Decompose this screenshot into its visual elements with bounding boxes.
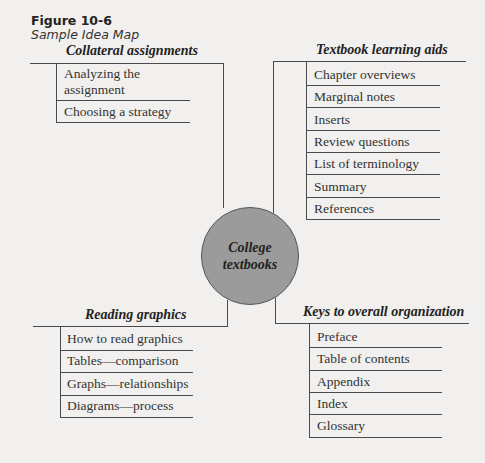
item-divider (309, 414, 442, 415)
item-divider (56, 100, 190, 101)
list-item: Index (317, 396, 348, 412)
item-divider (306, 130, 440, 131)
central-topic-line2: textbooks (223, 256, 277, 273)
branch-underline (33, 326, 228, 327)
branch-underline (273, 61, 466, 62)
item-divider (306, 107, 440, 108)
list-item: assignment (64, 82, 125, 98)
item-divider (306, 152, 440, 153)
connector-line (273, 61, 274, 213)
item-divider (309, 437, 442, 438)
item-divider (306, 174, 440, 175)
list-item: Appendix (317, 374, 370, 390)
item-divider (60, 372, 193, 373)
item-divider (309, 370, 442, 371)
connector-line (227, 300, 228, 326)
central-topic-line1: College (228, 239, 272, 256)
figure-caption: Sample Idea Map (31, 27, 139, 42)
item-divider (60, 395, 193, 396)
item-spine (56, 63, 57, 122)
list-item: Tables—comparison (67, 353, 179, 369)
item-divider (309, 392, 442, 393)
item-divider (306, 197, 440, 198)
list-item: List of terminology (314, 156, 419, 172)
branch-title: Reading graphics (85, 307, 187, 323)
item-divider (306, 219, 440, 220)
item-divider (309, 347, 442, 348)
item-divider (56, 122, 190, 123)
item-divider (60, 417, 193, 418)
list-item: How to read graphics (67, 331, 183, 347)
list-item: Diagrams—process (67, 398, 173, 414)
list-item: Inserts (314, 112, 350, 128)
list-item: Marginal notes (314, 89, 395, 105)
figure-label: Figure 10-6 (31, 13, 112, 28)
list-item: Table of contents (317, 351, 410, 367)
item-spine (309, 323, 310, 437)
branch-title: Keys to overall organization (303, 304, 464, 320)
item-divider (306, 85, 440, 86)
connector-line (275, 298, 276, 323)
list-item: References (314, 201, 374, 217)
branch-underline (30, 63, 224, 64)
list-item: Choosing a strategy (64, 104, 171, 120)
list-item: Summary (314, 179, 367, 195)
branch-title: Collateral assignments (66, 43, 198, 59)
list-item: Preface (317, 329, 357, 345)
list-item: Chapter overviews (314, 67, 416, 83)
list-item: Review questions (314, 134, 410, 150)
list-item: Analyzing the (64, 66, 140, 82)
central-topic-circle: College textbooks (201, 207, 299, 305)
list-item: Glossary (317, 418, 365, 434)
item-divider (60, 350, 193, 351)
branch-title: Textbook learning aids (316, 42, 448, 58)
connector-line (223, 63, 224, 208)
list-item: Graphs—relationships (67, 376, 188, 392)
branch-underline (275, 323, 469, 324)
